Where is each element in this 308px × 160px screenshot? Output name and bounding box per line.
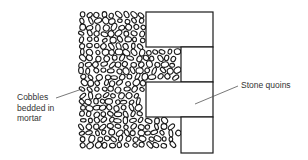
cobble-stone xyxy=(86,111,92,117)
cobble-stone xyxy=(137,116,143,123)
cobble-stone xyxy=(139,142,145,148)
cobble-stone xyxy=(78,123,85,131)
cobble-stone xyxy=(79,142,86,149)
quoin-1 xyxy=(146,12,213,47)
cobble-stone xyxy=(86,29,93,36)
cobble-stone xyxy=(114,112,122,117)
cobble-stone xyxy=(120,104,126,110)
cobble-stone xyxy=(78,98,85,105)
cobble-stone xyxy=(85,68,90,74)
cobble-stone xyxy=(93,98,98,104)
cobble-stone xyxy=(169,129,174,137)
cobble-stone xyxy=(88,17,94,25)
cobble-stone xyxy=(105,75,110,80)
cobble-stone xyxy=(144,118,152,125)
cobble-stone xyxy=(94,86,100,92)
cobble-stone xyxy=(115,49,122,55)
cobble-stone xyxy=(85,123,93,131)
cobble-stone xyxy=(80,49,84,55)
cobble-stone xyxy=(110,93,116,98)
cobble-stone xyxy=(95,50,101,56)
cobble-stone xyxy=(170,56,177,63)
cobble-stone xyxy=(146,50,151,56)
cobble-stone xyxy=(108,86,114,91)
cobble-stone xyxy=(79,36,85,43)
cobble-stone xyxy=(79,18,85,25)
cobble-stone xyxy=(131,17,138,24)
cobble-stone xyxy=(79,131,85,136)
cobble-stone xyxy=(109,129,115,135)
cobble-stone xyxy=(132,136,139,143)
cobble-stone xyxy=(130,110,136,117)
cobble-stone xyxy=(116,79,124,86)
cobble-stone xyxy=(130,48,138,56)
cobble-stone xyxy=(98,137,104,142)
cobble-stone xyxy=(85,62,92,68)
cobble-stone xyxy=(138,135,146,142)
cobble-stone xyxy=(132,37,136,42)
cobble-stone xyxy=(102,38,108,43)
cobble-stone xyxy=(169,141,177,149)
quoin-3 xyxy=(146,82,213,117)
cobble-stone xyxy=(124,142,130,148)
cobble-stone xyxy=(107,69,114,73)
cobble-stone xyxy=(88,92,93,100)
cobble-stone xyxy=(85,130,92,135)
cobble-stone xyxy=(174,48,181,54)
cobble-stone xyxy=(113,105,120,112)
cobble-stone xyxy=(80,24,86,31)
cobble-stone xyxy=(117,142,122,148)
cobble-stone xyxy=(94,43,99,48)
cobble-stone xyxy=(125,81,131,87)
cobble-stone xyxy=(167,49,172,55)
cobble-stone xyxy=(121,60,128,67)
cobble-stone xyxy=(157,54,165,62)
cobble-stone xyxy=(117,19,122,23)
cobble-stone xyxy=(78,31,84,36)
cobble-stone xyxy=(78,67,83,74)
cobble-stone xyxy=(115,124,122,129)
cobble-stone xyxy=(123,117,128,124)
cobble-stone xyxy=(142,73,149,80)
cobble-stone xyxy=(139,87,145,93)
cobble-stone xyxy=(102,11,107,17)
cobble-stone xyxy=(125,37,132,42)
cobble-stone xyxy=(100,61,108,67)
cobble-stone xyxy=(87,43,93,47)
cobble-stone xyxy=(125,91,133,99)
cobble-stone xyxy=(102,142,108,149)
cobbles-leader-line xyxy=(56,89,82,98)
cobble-stone xyxy=(153,135,162,143)
cobble-stone xyxy=(131,43,135,49)
cobble-stone xyxy=(172,74,180,81)
cobble-stone xyxy=(124,87,131,91)
cobble-stone xyxy=(120,100,127,104)
cobble-stone xyxy=(151,67,157,75)
cobble-stone xyxy=(140,38,146,43)
cobble-stone xyxy=(123,129,130,137)
cobble-stone xyxy=(104,135,111,141)
cobble-stone xyxy=(79,92,87,99)
cobble-stone xyxy=(157,73,164,80)
cobble-stone xyxy=(126,55,134,61)
quoin-4 xyxy=(181,117,213,153)
cobble-stone xyxy=(115,61,122,68)
cobble-stone xyxy=(80,119,86,122)
cobble-stone xyxy=(148,74,156,80)
cobble-stone xyxy=(158,49,165,55)
cobble-stone xyxy=(130,30,138,37)
cobble-stone xyxy=(102,92,109,99)
cobble-stone xyxy=(87,80,93,87)
cobble-stone xyxy=(101,68,106,73)
cobble-stone xyxy=(80,105,85,110)
cobble-stone xyxy=(130,131,135,136)
cobble-stone xyxy=(159,130,165,136)
stone-quoins-label: Stone quoins xyxy=(241,80,291,91)
cobbles-label: Cobbles bedded in mortar xyxy=(17,92,54,124)
cobble-stone xyxy=(114,10,123,19)
cobble-stone xyxy=(94,37,99,42)
cobble-stone xyxy=(131,85,139,93)
cobble-stone xyxy=(138,124,145,131)
cobble-stone xyxy=(139,18,145,24)
cobble-stone xyxy=(127,74,132,79)
